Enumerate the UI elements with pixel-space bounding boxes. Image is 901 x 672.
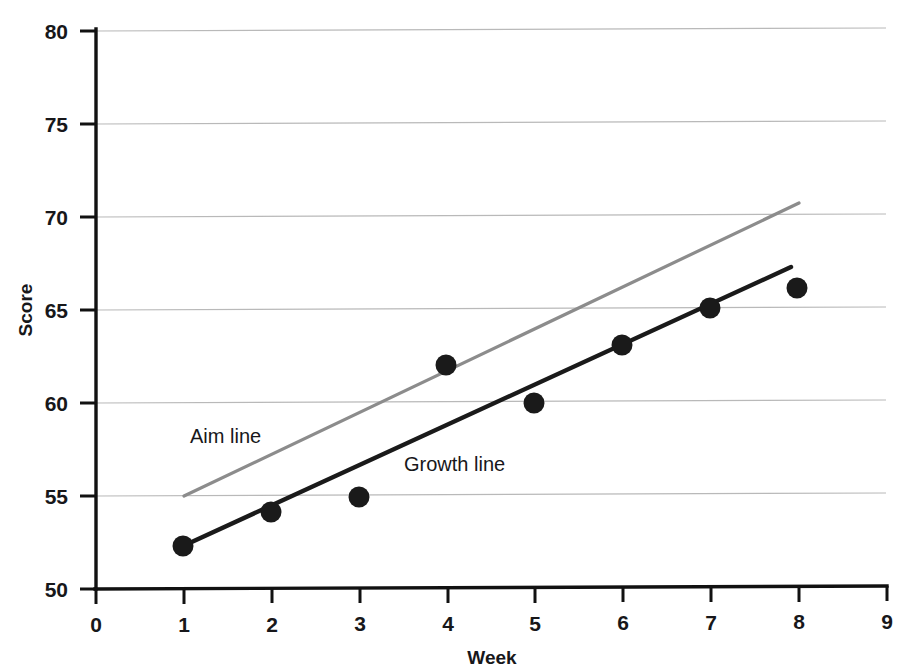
data-point-week-1 (173, 536, 194, 557)
x-tick-label-7: 7 (705, 611, 717, 634)
x-tick-label-2: 2 (266, 613, 278, 636)
x-axis-title: Week (467, 647, 517, 668)
x-tick-label-9: 9 (881, 610, 893, 633)
y-tick-label-70: 70 (45, 206, 68, 229)
data-point-week-5 (524, 393, 545, 414)
x-tick-label-1: 1 (178, 613, 190, 636)
y-tick-label-65: 65 (45, 299, 69, 322)
chart-container: 80 75 70 65 60 55 50 0 1 2 3 4 5 6 7 8 9… (0, 0, 901, 672)
data-point-week-7 (700, 298, 721, 319)
x-tick-label-8: 8 (793, 610, 805, 633)
x-tick-label-4: 4 (442, 612, 454, 635)
y-tick-label-75: 75 (45, 113, 69, 136)
score-vs-week-chart: 80 75 70 65 60 55 50 0 1 2 3 4 5 6 7 8 9… (0, 0, 901, 672)
growth-line-label: Growth line (404, 453, 505, 475)
chart-background (0, 0, 901, 672)
y-tick-label-80: 80 (45, 20, 68, 43)
x-tick-label-5: 5 (529, 612, 541, 635)
y-tick-label-60: 60 (45, 392, 68, 415)
x-tick-label-6: 6 (617, 611, 629, 634)
data-point-week-4 (436, 355, 457, 376)
aim-line-label: Aim line (190, 425, 261, 447)
y-axis-title: Score (15, 284, 36, 337)
y-tick-label-50: 50 (45, 578, 68, 601)
data-point-week-2 (261, 502, 282, 523)
y-tick-label-55: 55 (45, 485, 69, 508)
data-point-week-3 (349, 487, 370, 508)
data-point-week-8 (787, 278, 808, 299)
x-tick-label-0: 0 (90, 613, 102, 636)
x-tick-label-3: 3 (354, 612, 366, 635)
data-point-week-6 (612, 335, 633, 356)
